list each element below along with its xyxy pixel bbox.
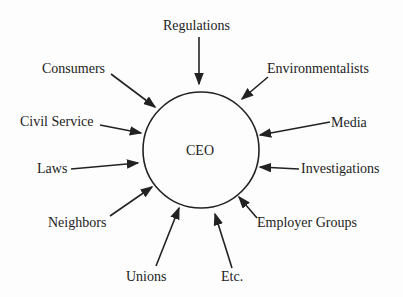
label-environmentalists: Environmentalists — [267, 61, 369, 77]
label-laws: Laws — [37, 161, 67, 177]
label-unions: Unions — [126, 269, 166, 285]
label-consumers: Consumers — [42, 61, 105, 77]
arrow-civil-service — [100, 125, 141, 133]
label-regulations: Regulations — [163, 18, 230, 34]
label-etc: Etc. — [221, 269, 243, 285]
label-civil-service: Civil Service — [20, 114, 94, 130]
label-employer-groups: Employer Groups — [257, 215, 357, 231]
label-media: Media — [331, 115, 367, 131]
arrow-investigations — [260, 167, 299, 169]
label-investigations: Investigations — [301, 161, 380, 177]
arrow-laws — [71, 163, 138, 169]
arrow-etc — [215, 214, 232, 268]
arrow-environmentalists — [242, 77, 268, 99]
stakeholder-diagram: CEO Regulations Environmentalists Media … — [0, 0, 403, 297]
arrow-employer-groups — [239, 197, 257, 218]
arrow-media — [260, 122, 330, 135]
center-label-ceo: CEO — [186, 143, 214, 159]
arrow-unions — [156, 208, 179, 266]
arrow-neighbors — [110, 187, 152, 216]
label-neighbors: Neighbors — [48, 215, 106, 231]
arrow-consumers — [111, 74, 155, 107]
